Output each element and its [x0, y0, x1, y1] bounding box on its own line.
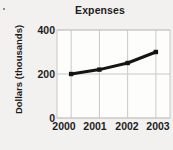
data-point-marker: [69, 72, 73, 76]
plot-area: [0, 0, 173, 150]
data-point-marker: [154, 50, 158, 54]
data-point-marker: [97, 67, 101, 71]
data-point-marker: [125, 61, 129, 65]
chart-container: Expenses Dollars (thousands) 400 200 0 2…: [0, 0, 173, 150]
